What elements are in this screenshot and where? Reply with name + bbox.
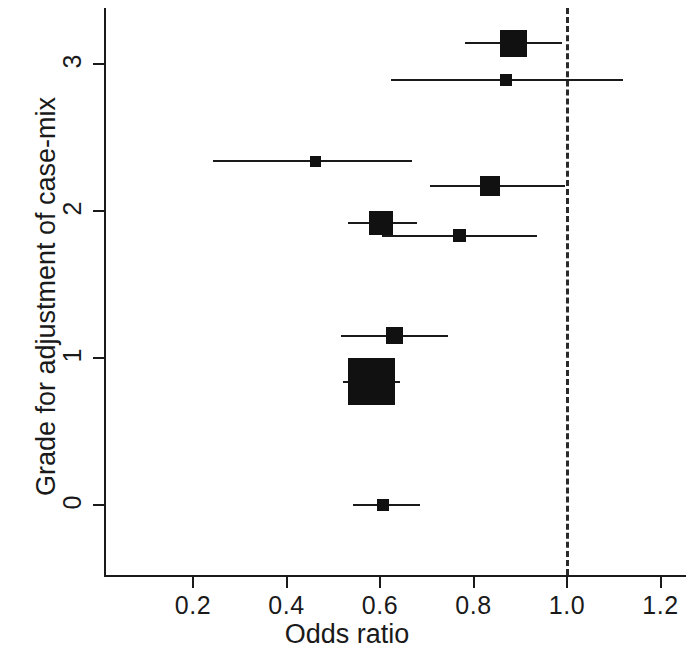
odds-ratio-marker: [369, 211, 393, 235]
reference-line-null-effect: [566, 8, 569, 575]
odds-ratio-marker: [310, 156, 321, 167]
odds-ratio-marker: [500, 30, 527, 57]
plot-area: [0, 0, 694, 655]
odds-ratio-marker: [500, 74, 512, 86]
odds-ratio-marker: [453, 229, 466, 242]
odds-ratio-marker: [348, 358, 395, 405]
odds-ratio-marker: [386, 327, 403, 344]
odds-ratio-marker: [377, 499, 389, 511]
odds-ratio-marker: [480, 176, 500, 196]
forest-plot-figure: 0.20.40.60.81.01.2 0123 Odds ratio Grade…: [0, 0, 694, 655]
